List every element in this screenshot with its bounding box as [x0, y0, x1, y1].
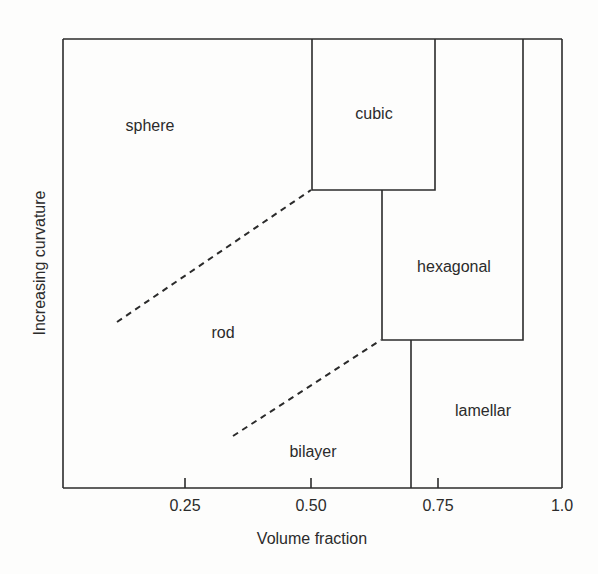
y-axis-title: Increasing curvature [31, 191, 49, 336]
x-tick-label-0.75: 0.75 [422, 497, 453, 515]
region-label-bilayer: bilayer [289, 443, 336, 461]
phase-diagram [0, 0, 598, 574]
rod-bilayer-boundary [233, 340, 381, 436]
region-label-sphere: sphere [126, 117, 175, 135]
region-label-hexagonal: hexagonal [417, 258, 491, 276]
region-label-lamellar: lamellar [455, 402, 511, 420]
region-label-cubic: cubic [355, 105, 392, 123]
x-tick-label-0.50: 0.50 [295, 497, 326, 515]
x-tick-label-1.0: 1.0 [551, 497, 573, 515]
sphere-rod-boundary [117, 190, 311, 322]
x-axis-title: Volume fraction [257, 530, 367, 548]
x-tick-label-0.25: 0.25 [169, 497, 200, 515]
region-label-rod: rod [211, 324, 234, 342]
